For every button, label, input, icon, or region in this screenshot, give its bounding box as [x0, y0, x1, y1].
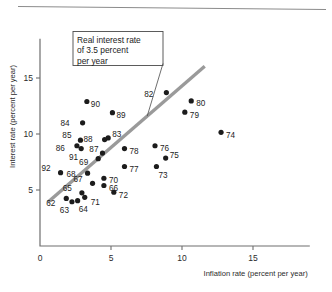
data-point-label: 74: [226, 131, 236, 140]
data-point: 72: [111, 190, 128, 201]
data-point-marker: [122, 164, 127, 169]
data-point-label: 91: [69, 153, 79, 162]
data-point-marker: [106, 135, 111, 140]
data-point-marker: [111, 190, 116, 195]
data-point-marker: [75, 198, 80, 203]
data-point-marker: [96, 156, 101, 161]
data-point-marker: [79, 190, 84, 195]
data-point-label: 88: [84, 135, 94, 144]
data-point-marker: [85, 171, 90, 176]
data-point-marker: [79, 146, 84, 151]
annotation-line: of 3.5 percent: [77, 45, 129, 55]
data-point-marker: [152, 143, 157, 148]
data-point-label: 90: [91, 100, 101, 109]
y-tick-label: 15: [24, 73, 34, 83]
data-point-marker: [101, 176, 106, 181]
data-point-marker: [58, 170, 63, 175]
annotation-line: Real interest rate: [77, 35, 141, 45]
data-point: 63: [60, 199, 75, 215]
data-point-label: 69: [79, 158, 89, 167]
data-point-marker: [69, 199, 74, 204]
data-point-label: 82: [144, 90, 154, 99]
data-point-marker: [218, 130, 223, 135]
data-point: 65: [63, 184, 85, 195]
data-point-marker: [100, 150, 105, 155]
y-axis-title: Interest rate (percent per year): [8, 64, 17, 167]
data-point: 87: [89, 145, 105, 156]
data-point-label: 86: [56, 144, 66, 153]
data-point-marker: [80, 120, 85, 125]
data-point-label: 78: [129, 147, 139, 156]
data-point-marker: [101, 183, 106, 188]
data-point-marker: [182, 110, 187, 115]
data-point-marker: [64, 196, 69, 201]
data-point-marker: [189, 98, 194, 103]
data-point: 78: [122, 146, 139, 156]
data-point-marker: [110, 110, 115, 115]
data-point-label: 64: [79, 205, 89, 214]
data-point: 92: [41, 164, 63, 176]
data-point: 83: [106, 130, 122, 140]
data-point: 77: [122, 164, 139, 175]
data-point: 74: [218, 130, 235, 140]
annotation-line: per year: [77, 56, 108, 66]
data-point-label: 73: [158, 171, 168, 180]
data-point-marker: [90, 181, 95, 186]
data-point-marker: [154, 164, 159, 169]
y-tick-label: 5: [28, 185, 33, 195]
data-point: 80: [189, 98, 206, 108]
data-point-label: 65: [63, 184, 73, 193]
data-point-label: 92: [41, 164, 51, 173]
data-point-marker: [163, 155, 168, 160]
data-point-label: 75: [170, 151, 180, 160]
data-point-label: 84: [60, 119, 70, 128]
data-point-label: 85: [62, 131, 72, 140]
data-point-label: 89: [116, 111, 126, 120]
data-point-marker: [82, 195, 87, 200]
data-point: 86: [56, 143, 80, 153]
data-point-label: 76: [160, 144, 170, 153]
data-point: 85: [62, 131, 83, 143]
data-point-label: 62: [46, 199, 56, 208]
data-point-label: 79: [190, 111, 200, 120]
scatter-plot: 51015051015 Real interest rateof 3.5 per…: [0, 0, 332, 292]
x-tick-label: 15: [248, 253, 258, 263]
data-point: 67: [73, 175, 95, 186]
data-point: 88: [84, 135, 108, 144]
x-tick-label: 5: [109, 253, 114, 263]
data-point-marker: [74, 143, 79, 148]
data-point-label: 77: [129, 165, 139, 174]
data-point-marker: [78, 138, 83, 143]
data-point-label: 80: [196, 99, 206, 108]
data-point-label: 71: [91, 198, 101, 207]
data-point: 73: [154, 164, 168, 180]
data-point: 76: [152, 143, 169, 153]
data-point-marker: [122, 146, 127, 151]
x-tick-label: 10: [177, 253, 187, 263]
data-point: 89: [110, 110, 126, 120]
data-point-label: 72: [119, 191, 129, 200]
data-point-label: 87: [89, 145, 99, 154]
data-points-layer: 9262636465718685918490686769878870668389…: [41, 90, 235, 215]
data-point: 64: [75, 198, 88, 214]
data-point-label: 67: [73, 175, 83, 184]
data-point-marker: [164, 90, 169, 95]
x-tick-label: 0: [38, 253, 43, 263]
figure-container: 51015051015 Real interest rateof 3.5 per…: [0, 0, 332, 292]
data-point: 84: [60, 119, 85, 128]
y-tick-label: 10: [24, 129, 34, 139]
data-point: 82: [144, 90, 169, 99]
data-point: 79: [182, 110, 199, 121]
data-point-marker: [84, 99, 89, 104]
x-axis-title: Inflation rate (percent per year): [204, 269, 309, 278]
data-point-label: 83: [112, 130, 122, 139]
data-point-label: 63: [60, 206, 70, 215]
data-point: 90: [84, 99, 100, 109]
